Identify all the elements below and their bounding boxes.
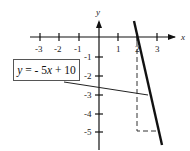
x-tick-label: -2 bbox=[54, 44, 62, 54]
y-tick-label: -4 bbox=[84, 109, 92, 119]
x-tick-label: -3 bbox=[35, 44, 43, 54]
x-tick-label: -1 bbox=[74, 44, 82, 54]
y-tick-label: -2 bbox=[84, 71, 92, 81]
y-tick-label: -3 bbox=[84, 90, 92, 100]
y-tick-label: -1 bbox=[84, 52, 92, 62]
graph-line bbox=[134, 21, 162, 145]
equation-const: + 10 bbox=[52, 64, 76, 76]
label-leader-line bbox=[64, 82, 148, 95]
x-tick-label: 1 bbox=[116, 44, 121, 54]
y-axis-label: y bbox=[95, 7, 100, 17]
x-axis-arrow-icon bbox=[168, 34, 176, 40]
equation-coef: = - 5 bbox=[22, 64, 47, 76]
y-axis-arrow-icon bbox=[96, 20, 102, 28]
x-tick-label: 3 bbox=[155, 44, 160, 54]
equation-label: y = - 5x + 10 bbox=[13, 59, 80, 81]
x-axis-label: x bbox=[180, 32, 185, 42]
y-tick-label: -5 bbox=[84, 127, 92, 137]
